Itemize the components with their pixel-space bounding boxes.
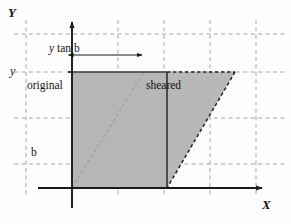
shear-angle-label: b: [31, 147, 37, 159]
shear-transformation-figure: Y X y y tan b original sheared b: [0, 0, 291, 224]
figure-canvas: [0, 0, 291, 224]
y-axis-label: Y: [8, 6, 16, 19]
original-region-label: original: [27, 80, 63, 92]
y-tick-label: y: [10, 65, 15, 77]
x-axis-label: X: [262, 198, 271, 211]
dimension-label: y tan b: [49, 43, 80, 55]
sheared-region-label: sheared: [146, 80, 181, 92]
dimension-label-expression: tan b: [54, 42, 80, 54]
